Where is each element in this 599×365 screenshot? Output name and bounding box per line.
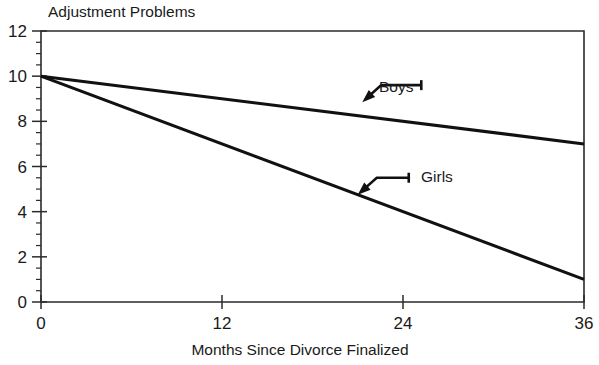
data-line-boys [41,76,584,144]
x-axis-title: Months Since Divorce Finalized [191,341,408,358]
x-tick-label-3: 36 [575,314,594,333]
line-chart-svg: Adjustment Problems 024681012 0122436 Bo… [0,0,599,365]
y-tick-label-1: 2 [18,248,27,267]
series-label-girls: Girls [421,168,453,185]
series-label-boys: Boys [379,78,414,95]
x-tick-label-2: 24 [394,314,413,333]
x-tick-label-0: 0 [36,314,45,333]
chart-title: Adjustment Problems [48,3,196,20]
y-tick-label-5: 10 [8,67,27,86]
y-tick-label-6: 12 [8,22,27,41]
annotation-group [358,80,422,195]
y-tick-label-0: 0 [18,293,27,312]
x-tick-label-1: 12 [213,314,232,333]
plot-frame [41,31,584,302]
y-tick-label-2: 4 [18,203,27,222]
plot-border [41,31,584,302]
y-axis-tick-labels: 024681012 [8,22,27,312]
data-line-girls [41,76,584,279]
chart-figure: Adjustment Problems 024681012 0122436 Bo… [0,0,599,365]
x-axis-tick-labels: 0122436 [36,314,593,333]
y-tick-label-4: 8 [18,112,27,131]
y-axis-ticks [32,31,47,302]
data-series-group [41,76,584,279]
y-tick-label-3: 6 [18,158,27,177]
